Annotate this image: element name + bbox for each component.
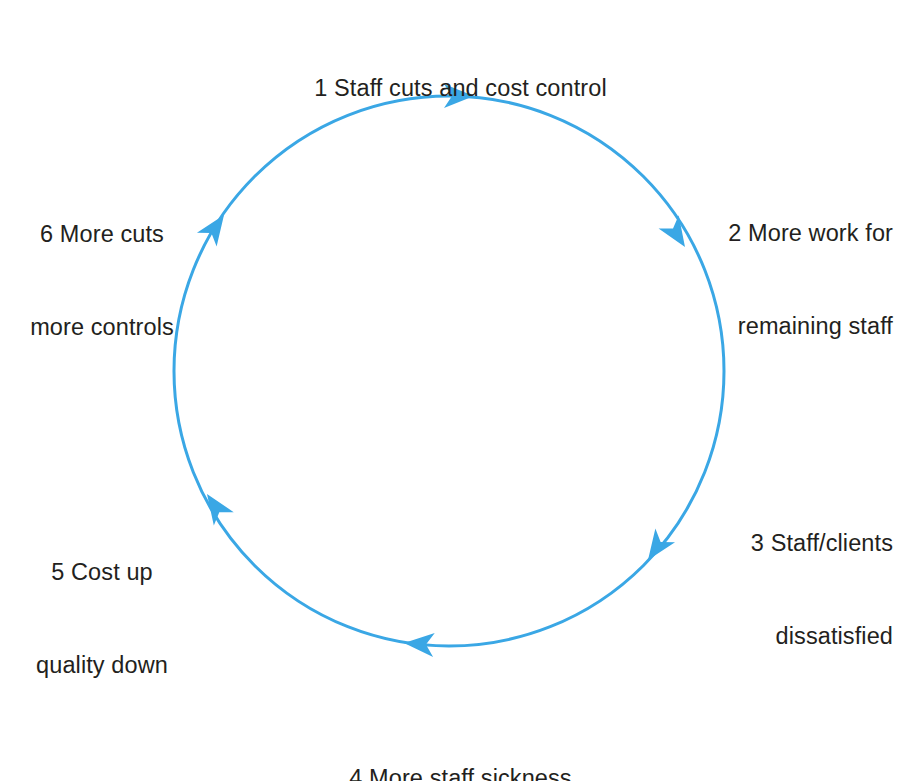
cycle-stage-5-line-2: quality down (14, 650, 190, 681)
cycle-stage-6-line-2: more controls (14, 312, 190, 343)
arrow-upper-right-icon (659, 215, 695, 253)
cycle-stage-6-line-1: 6 More cuts (14, 219, 190, 250)
cycle-stage-2-line-1: 2 More work for (728, 218, 893, 249)
arrow-upper-left-icon (197, 208, 234, 246)
cycle-stage-5-line-1: 5 Cost up (14, 557, 190, 588)
cycle-circle-outline (174, 96, 724, 646)
cycle-stage-label-3: 3 Staff/clients dissatisfied (751, 466, 893, 683)
cycle-stage-label-2: 2 More work for remaining staff (728, 156, 893, 373)
cycle-stage-3-line-2: dissatisfied (751, 621, 893, 652)
cycle-stage-label-1: 1 Staff cuts and cost control (0, 11, 921, 135)
cycle-stage-3-line-1: 3 Staff/clients (751, 528, 893, 559)
cycle-stage-label-4: 4 More staff sickness more staff absente… (0, 701, 921, 781)
cycle-stage-label-5: 5 Cost up quality down (14, 495, 190, 712)
cycle-arrowheads (197, 84, 695, 657)
cycle-stage-4-line-1: 4 More staff sickness (0, 763, 921, 781)
cycle-stage-label-6: 6 More cuts more controls (14, 157, 190, 374)
cycle-stage-1-line-1: 1 Staff cuts and cost control (0, 73, 921, 104)
cycle-ring (174, 96, 724, 646)
cycle-stage-2-line-2: remaining staff (728, 311, 893, 342)
